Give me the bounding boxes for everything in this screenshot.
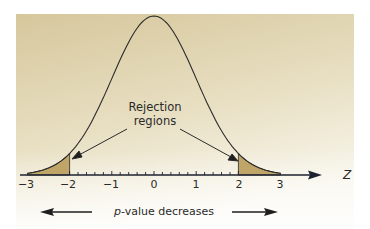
- tick-label-0: 0: [151, 178, 158, 191]
- callout-line-2: regions: [122, 114, 188, 128]
- x-axis-label: Z: [343, 168, 351, 182]
- callout-line-1: Rejection: [122, 100, 188, 114]
- pvalue-decreases-label: p-value decreases: [114, 205, 214, 218]
- tick-label-3: 3: [277, 178, 284, 191]
- tick-label-2: 2: [236, 178, 243, 191]
- tick-label-neg1: −1: [103, 178, 119, 191]
- rejection-regions-callout: Rejection regions: [122, 100, 188, 128]
- pvalue-rest: -value decreases: [121, 205, 214, 218]
- tick-label-neg3: −3: [18, 178, 34, 191]
- pvalue-p: p: [114, 205, 121, 218]
- tick-label-1: 1: [193, 178, 200, 191]
- tick-label-neg2: −2: [60, 178, 76, 191]
